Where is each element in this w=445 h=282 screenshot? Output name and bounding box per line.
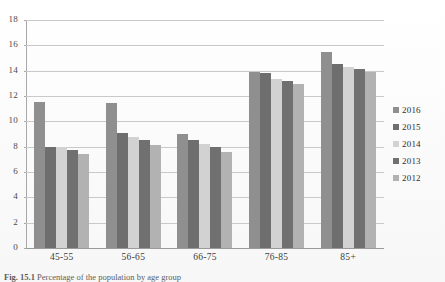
legend-swatch-icon xyxy=(393,158,399,164)
legend-item[interactable]: 2013 xyxy=(393,152,443,169)
bar-group xyxy=(98,20,170,248)
bar xyxy=(128,137,139,248)
figure-container: 024681012141618 45-5556-6566-7576-8585+ … xyxy=(0,0,445,282)
legend-item[interactable]: 2014 xyxy=(393,135,443,152)
caption-text: Percentage of the population by age grou… xyxy=(35,272,181,282)
legend-swatch-icon xyxy=(393,107,399,113)
y-tick-label: 18 xyxy=(0,14,18,24)
gridline xyxy=(26,248,384,249)
caption-prefix: Fig. 15.1 xyxy=(4,272,35,282)
figure-caption: Fig. 15.1 Percentage of the population b… xyxy=(4,272,434,282)
y-tick-label: 10 xyxy=(0,115,18,125)
bar-group xyxy=(241,20,313,248)
bar-group xyxy=(169,20,241,248)
bar xyxy=(332,64,343,248)
y-tick-label: 6 xyxy=(0,166,18,176)
y-axis-labels: 024681012141618 xyxy=(0,20,24,248)
bar xyxy=(67,150,78,248)
bar xyxy=(271,79,282,248)
bar-groups xyxy=(26,20,384,248)
legend-label: 2014 xyxy=(402,139,421,149)
y-tick-label: 14 xyxy=(0,65,18,75)
bar xyxy=(343,67,354,248)
plot-area xyxy=(26,20,384,248)
legend-label: 2015 xyxy=(402,122,421,132)
bar xyxy=(177,134,188,248)
bar xyxy=(282,81,293,248)
legend-item[interactable]: 2015 xyxy=(393,118,443,135)
bar xyxy=(365,72,376,248)
bar xyxy=(321,52,332,248)
bar xyxy=(45,147,56,248)
chart-legend: 20162015201420132012 xyxy=(393,101,443,186)
bar xyxy=(354,69,365,248)
y-tick-label: 12 xyxy=(0,90,18,100)
bar-group xyxy=(312,20,384,248)
bar xyxy=(249,72,260,248)
bar-group xyxy=(26,20,98,248)
bar xyxy=(221,152,232,248)
bar xyxy=(260,73,271,248)
bar xyxy=(210,147,221,248)
x-tick-label: 45-55 xyxy=(26,252,98,262)
legend-label: 2016 xyxy=(402,105,421,115)
bar xyxy=(293,84,304,248)
bar xyxy=(139,140,150,248)
legend-swatch-icon xyxy=(393,124,399,130)
legend-swatch-icon xyxy=(393,141,399,147)
x-tick-label: 85+ xyxy=(312,252,384,262)
y-tick-label: 4 xyxy=(0,191,18,201)
bar xyxy=(150,145,161,248)
bar xyxy=(56,147,67,248)
legend-label: 2013 xyxy=(402,156,421,166)
x-axis-labels: 45-5556-6566-7576-8585+ xyxy=(26,252,384,262)
legend-item[interactable]: 2016 xyxy=(393,101,443,118)
bar xyxy=(78,154,89,248)
legend-item[interactable]: 2012 xyxy=(393,169,443,186)
y-tick-label: 2 xyxy=(0,217,18,227)
y-tick-label: 8 xyxy=(0,141,18,151)
bar xyxy=(199,144,210,249)
legend-swatch-icon xyxy=(393,175,399,181)
x-tick-label: 66-75 xyxy=(169,252,241,262)
bar xyxy=(188,140,199,248)
bar xyxy=(34,102,45,248)
bar xyxy=(106,103,117,248)
x-tick-label: 56-65 xyxy=(98,252,170,262)
bar xyxy=(117,133,128,248)
y-tick-label: 0 xyxy=(0,242,18,252)
x-tick-label: 76-85 xyxy=(241,252,313,262)
y-tick-label: 16 xyxy=(0,39,18,49)
legend-label: 2012 xyxy=(402,173,421,183)
